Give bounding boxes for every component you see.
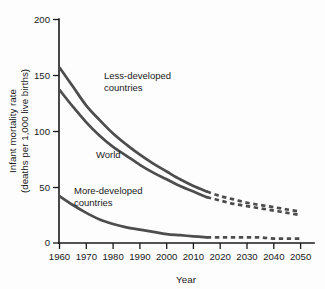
x-tick-label-2050: 2050 (290, 251, 311, 262)
chart-canvas: 200 150 100 50 0 1960 1970 1980 1990 200… (0, 0, 325, 289)
annotation-more-developed-line1: More-developed (74, 185, 143, 196)
x-tick-marks (60, 243, 301, 249)
y-tick-marks (53, 20, 59, 244)
x-tick-label-2020: 2020 (210, 251, 231, 262)
y-tick-label-200: 200 (34, 14, 50, 25)
annotation-more-developed-line2: countries (74, 197, 113, 208)
annotation-world: World (96, 149, 121, 160)
y-tick-labels: 200 150 100 50 0 (34, 14, 50, 248)
infant-mortality-line-chart: 200 150 100 50 0 1960 1970 1980 1990 200… (0, 0, 325, 289)
x-tick-label-1960: 1960 (49, 251, 70, 262)
x-tick-label-1970: 1970 (76, 251, 97, 262)
y-tick-label-100: 100 (34, 126, 50, 137)
series-less-developed-countries-projected (207, 192, 301, 212)
x-tick-label-1990: 1990 (129, 251, 150, 262)
series-annotations: Less-developed countries World More-deve… (74, 70, 171, 208)
annotation-less-developed-line2: countries (104, 82, 143, 93)
x-tick-label-2010: 2010 (183, 251, 204, 262)
x-tick-labels: 1960 1970 1980 1990 2000 2010 2020 2030 … (49, 251, 311, 262)
annotation-less-developed-line1: Less-developed (104, 70, 171, 81)
series-world-projected (207, 197, 301, 215)
series-more-developed-countries-projected (207, 237, 301, 238)
y-tick-label-0: 0 (45, 237, 50, 248)
y-tick-label-50: 50 (39, 182, 50, 193)
x-tick-label-2030: 2030 (236, 251, 257, 262)
x-tick-label-2000: 2000 (156, 251, 177, 262)
y-tick-label-150: 150 (34, 70, 50, 81)
x-axis-title: Year (176, 274, 197, 285)
axes-group (59, 19, 314, 243)
y-axis-title-line1: Infant mortality rate (7, 89, 18, 173)
x-tick-label-2040: 2040 (263, 251, 284, 262)
y-axis-title-line2: (deaths per 1,000 live births) (19, 69, 30, 193)
x-tick-label-1980: 1980 (102, 251, 123, 262)
